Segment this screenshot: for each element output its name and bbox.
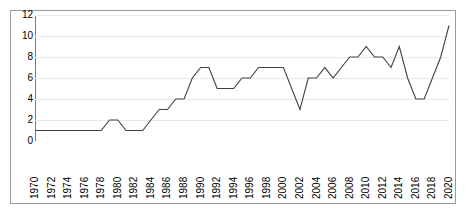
- x-tick-label: 1992: [212, 177, 222, 199]
- y-tick-label: 4: [11, 94, 33, 104]
- x-tick-label: 1986: [162, 177, 172, 199]
- y-tick-label: 2: [11, 115, 33, 125]
- plot-wrapper: 024681012 197019721974197619781980198219…: [11, 11, 455, 203]
- y-tick-label: 8: [11, 52, 33, 62]
- x-tick-label: 1998: [262, 177, 272, 199]
- series-1-polyline: [35, 26, 449, 131]
- x-tick-label: 1982: [129, 177, 139, 199]
- x-tick-label: 2000: [278, 177, 288, 199]
- x-tick-label: 1990: [196, 177, 206, 199]
- data-line-series: [35, 15, 449, 141]
- x-tick-label: 1996: [245, 177, 255, 199]
- x-tick-label: 2016: [411, 177, 421, 199]
- x-tick-label: 1974: [63, 177, 73, 199]
- y-tick-label: 12: [11, 10, 33, 20]
- x-tick-label: 2010: [361, 177, 371, 199]
- x-tick-label: 2012: [378, 177, 388, 199]
- x-tick-label: 1988: [179, 177, 189, 199]
- x-tick-label: 2002: [295, 177, 305, 199]
- x-tick-label: 2018: [427, 177, 437, 199]
- y-tick-label: 6: [11, 73, 33, 83]
- x-tick-label: 1978: [96, 177, 106, 199]
- chart-figure: 024681012 197019721974197619781980198219…: [10, 10, 456, 204]
- x-tick-label: 1976: [80, 177, 90, 199]
- x-tick-label: 2008: [345, 177, 355, 199]
- x-axis-tick-labels: 1970197219741976197819801982198419861988…: [35, 143, 449, 201]
- x-tick-label: 2020: [444, 177, 454, 199]
- x-tick-label: 1980: [113, 177, 123, 199]
- x-tick-label: 1984: [146, 177, 156, 199]
- x-tick-label: 1972: [47, 177, 57, 199]
- x-tick-label: 1994: [229, 177, 239, 199]
- x-tick-label: 2014: [394, 177, 404, 199]
- plot-area: [35, 15, 449, 141]
- x-tick-label: 1970: [30, 177, 40, 199]
- y-tick-label: 10: [11, 31, 33, 41]
- x-tick-label: 2004: [312, 177, 322, 199]
- x-tick-label: 2006: [328, 177, 338, 199]
- y-tick-label: 0: [11, 136, 33, 146]
